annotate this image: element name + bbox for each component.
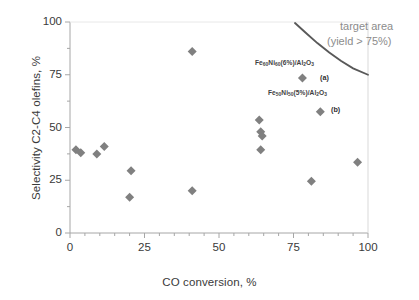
data-point[interactable] [127, 166, 136, 175]
data-point[interactable] [353, 158, 362, 167]
data-point[interactable] [256, 145, 265, 154]
data-point[interactable] [298, 73, 307, 82]
data-point[interactable] [307, 177, 316, 186]
data-point[interactable] [125, 193, 134, 202]
x-axis-title: CO conversion, % [0, 276, 419, 288]
y-tick-label: 100 [28, 15, 62, 27]
target-area-label-line2: (yield > 75%) [327, 35, 392, 47]
chart-figure: CO conversion, % Selectivity C2-C4 olefi… [0, 0, 419, 300]
x-tick-label: 25 [125, 241, 165, 253]
x-tick-label: 100 [348, 241, 388, 253]
data-point[interactable] [255, 116, 264, 125]
target-area-label-line1: target area [340, 20, 393, 32]
y-tick-label: 50 [28, 121, 62, 133]
x-tick-label: 50 [199, 241, 239, 253]
x-tick-label: 75 [274, 241, 314, 253]
data-point[interactable] [316, 107, 325, 116]
series-a-label: Fe60Ni60(6%)/Al2O3 [255, 59, 314, 66]
series-b-label-key: (b) [331, 105, 340, 114]
data-point[interactable] [92, 149, 101, 158]
y-tick-label: 25 [28, 173, 62, 185]
y-tick-label: 75 [28, 68, 62, 80]
data-point[interactable] [188, 47, 197, 56]
y-tick-label: 0 [28, 226, 62, 238]
series-a-label-key: (a) [320, 73, 329, 82]
series-b-label: Fe50Ni50(5%)/Al2O3 [268, 89, 327, 96]
data-point[interactable] [100, 142, 109, 151]
x-tick-label: 0 [50, 241, 90, 253]
data-point[interactable] [188, 186, 197, 195]
